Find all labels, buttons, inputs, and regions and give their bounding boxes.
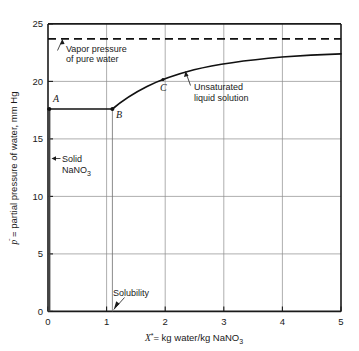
solid-nano3-label-line2: NaNO [62, 165, 87, 175]
solid-nano3-label-line1: Solid [62, 154, 82, 164]
point-label-c: C [160, 82, 167, 93]
point-label-b: B [116, 109, 122, 120]
ytick-label-25: 25 [32, 18, 43, 29]
point-marker-c [161, 78, 164, 81]
chart-background [0, 0, 359, 351]
point-label-a: A [52, 93, 60, 104]
vapor-pressure-label-line1: Vapor pressure [66, 44, 127, 54]
vapor-pressure-label-line2: of pure water [66, 54, 119, 64]
xtick-label-4: 4 [280, 316, 285, 327]
annotation-vapor-pressure: Vapor pressure of pure water [58, 40, 127, 65]
y-axis-title: p̄ = partial pressure of water, mm Hg [8, 92, 19, 246]
x-axis-subscript: 3 [239, 338, 243, 345]
unsaturated-label-line2: liquid solution [194, 93, 249, 103]
y-axis-title-rest: = partial pressure of water, mm Hg [8, 92, 19, 240]
x-axis-title-rest: = kg water/kg NaNO [153, 332, 239, 343]
ytick-label-5: 5 [38, 248, 43, 259]
solubility-label: Solubility [113, 288, 150, 298]
x-axis-title: X*= kg water/kg NaNO3 [144, 332, 243, 345]
point-marker-a [47, 107, 51, 111]
solid-nano3-label-subscript: 3 [87, 170, 91, 177]
chart-figure: 0 5 10 15 20 25 0 1 2 3 4 5 p̄ = partial… [0, 0, 359, 351]
ytick-label-20: 20 [32, 76, 43, 87]
svg-text:NaNO3: NaNO3 [62, 165, 91, 177]
ytick-label-0: 0 [38, 306, 43, 317]
xtick-label-1: 1 [104, 316, 109, 327]
xtick-label-0: 0 [45, 316, 50, 327]
point-marker-b [110, 107, 114, 111]
ytick-label-10: 10 [32, 191, 43, 202]
xtick-label-3: 3 [221, 316, 226, 327]
chart-svg: 0 5 10 15 20 25 0 1 2 3 4 5 p̄ = partial… [0, 0, 359, 351]
xtick-label-2: 2 [163, 316, 168, 327]
xtick-label-5: 5 [338, 316, 343, 327]
ytick-label-15: 15 [32, 133, 43, 144]
unsaturated-label-line1: Unsaturated [194, 82, 243, 92]
svg-text:X*= kg water/kg NaNO3: X*= kg water/kg NaNO3 [144, 332, 243, 345]
svg-text:p̄ = partial pressure of water: p̄ = partial pressure of water, mm Hg [8, 92, 19, 246]
